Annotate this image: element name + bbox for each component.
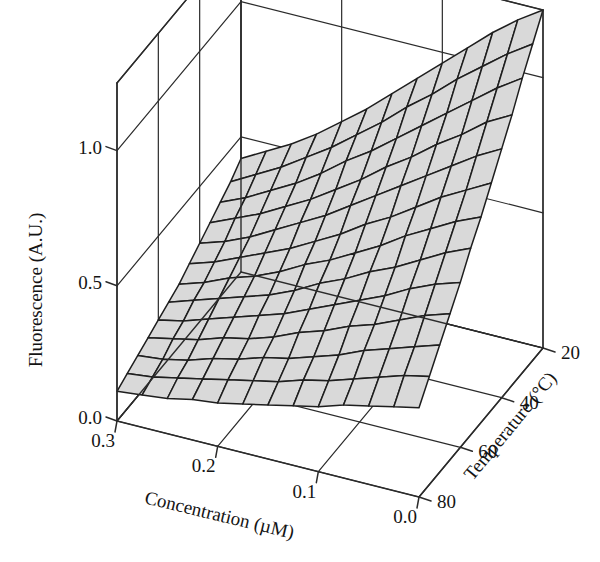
box-top-edge-left: [117, 0, 241, 83]
y-tick-label-3: 80: [437, 491, 456, 512]
y-tick: [543, 348, 555, 352]
wall-gridline-horizontal: [117, 2, 241, 151]
z-tick: [106, 417, 117, 421]
z-tick-label-1: 0.5: [78, 272, 102, 293]
x-tick: [216, 446, 218, 457]
x-tick-label-2: 0.1: [292, 481, 316, 502]
x-axis-line: [117, 421, 419, 497]
y-tick: [419, 497, 431, 501]
z-tick: [106, 282, 117, 286]
x-tick-label-1: 0.2: [192, 455, 216, 476]
x-tick: [316, 472, 318, 483]
x-tick-label-0: 0.3: [91, 430, 115, 451]
z-tick: [106, 147, 117, 151]
y-tick: [502, 398, 514, 402]
z-tick-label-0: 0.0: [78, 407, 102, 428]
wall-gridline-horizontal: [117, 0, 241, 83]
x-axis-title: Concentration (µM): [142, 487, 296, 544]
z-axis-title: Fluorescence (A.U.): [25, 213, 47, 368]
x-tick: [417, 497, 419, 508]
wall-gridline-horizontal: [241, 0, 543, 10]
box-top-edge-right: [241, 0, 543, 10]
x-tick: [115, 421, 117, 432]
y-axis-title: Temperature (°C): [459, 368, 561, 485]
surface-plot-figure: 0.00.51.00.30.20.10.020406080Fluorescenc…: [0, 0, 600, 562]
z-tick-label-2: 1.0: [78, 137, 102, 158]
x-tick-label-3: 0.0: [393, 506, 417, 527]
y-tick-label-0: 20: [561, 342, 580, 363]
y-tick: [460, 447, 472, 451]
